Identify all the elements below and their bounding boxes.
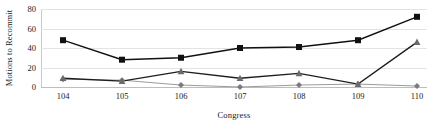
data-point-marker xyxy=(414,83,420,89)
data-point-marker xyxy=(296,44,302,50)
y-axis-title-text: Motions to Recommit xyxy=(4,9,14,86)
data-point-marker xyxy=(355,37,361,43)
data-point-marker xyxy=(237,45,243,51)
y-tick-label: 80 xyxy=(28,5,37,14)
x-tick-label: 110 xyxy=(411,92,423,101)
data-point-marker xyxy=(414,14,420,20)
y-axis-tick-labels: 020406080 xyxy=(17,0,39,95)
y-tick-label: 0 xyxy=(32,83,36,92)
chart-container: Motions to Recommit 020406080 1041051061… xyxy=(0,0,434,139)
x-tick-label: 104 xyxy=(57,92,70,101)
data-point-marker xyxy=(178,55,184,61)
y-tick-label: 20 xyxy=(28,64,37,73)
x-axis-tick-labels: 104105106107108109110 xyxy=(41,92,427,108)
x-axis-title: Congress xyxy=(41,110,427,120)
plot-area xyxy=(41,9,427,87)
series-layer xyxy=(41,9,427,87)
series-line xyxy=(63,17,417,60)
y-tick-label: 40 xyxy=(28,44,37,53)
data-point-marker xyxy=(119,57,125,63)
x-tick-label: 109 xyxy=(352,92,365,101)
data-point-marker xyxy=(60,37,66,43)
y-tick-label: 60 xyxy=(28,25,37,34)
x-tick-label: 108 xyxy=(293,92,306,101)
x-tick-label: 105 xyxy=(116,92,129,101)
data-point-marker xyxy=(237,84,243,90)
data-point-marker xyxy=(414,39,421,45)
y-axis-title: Motions to Recommit xyxy=(0,0,18,95)
x-tick-label: 106 xyxy=(175,92,188,101)
x-tick-label: 107 xyxy=(234,92,247,101)
